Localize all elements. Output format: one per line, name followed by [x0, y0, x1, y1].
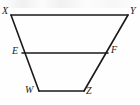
geometry-figure: X Y E F W Z — [0, 0, 140, 105]
vertex-label-W: W — [25, 85, 33, 95]
vertex-label-X: X — [2, 6, 8, 16]
trapezoid-diagram-svg — [0, 0, 140, 105]
vertex-label-E: E — [12, 46, 18, 56]
vertex-label-F: F — [111, 45, 117, 55]
vertex-label-Z: Z — [86, 86, 92, 96]
vertex-label-Y: Y — [130, 6, 136, 16]
